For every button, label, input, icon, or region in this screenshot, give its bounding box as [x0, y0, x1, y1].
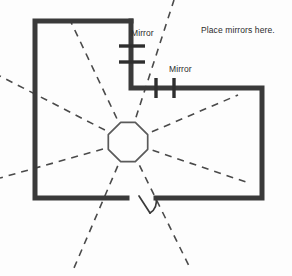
- ray-left-upper: [0, 76, 128, 142]
- wall-outline-right-section: [131, 21, 262, 198]
- place-mirrors-instruction: Place mirrors here.: [201, 25, 275, 35]
- door-leaf[interactable]: [139, 196, 150, 213]
- floor-plan-canvas: [0, 0, 292, 276]
- central-octagon: [108, 122, 147, 161]
- ray-up-right: [128, 0, 174, 142]
- floor-plan-diagram: Mirror Mirror Place mirrors here.: [0, 0, 292, 276]
- wall-group: [35, 21, 262, 198]
- mirror-label-1: Mirror: [131, 28, 154, 38]
- mirror-label-2: Mirror: [169, 64, 192, 74]
